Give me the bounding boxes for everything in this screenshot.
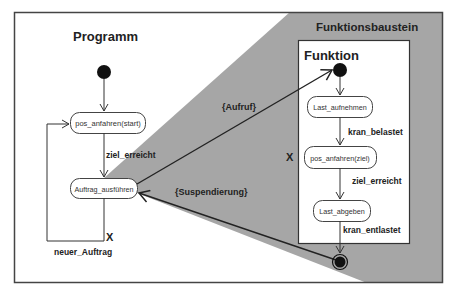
- suspend-label: {Suspendierung}: [175, 187, 248, 197]
- function-start-node: [333, 63, 347, 77]
- kran-belastet-label: kran_belastet: [348, 127, 403, 137]
- state-diagram: Programm Funktionsbaustein Funktion pos_…: [0, 0, 451, 295]
- program-loop-x-mark: X: [106, 231, 114, 243]
- state-last-abgeben[interactable]: Last_abgeben: [314, 201, 371, 222]
- program-ziel-erreicht-label: ziel_erreicht: [106, 150, 156, 160]
- function-end-node: [333, 255, 348, 270]
- state-last-abgeben-label: Last_abgeben: [319, 207, 365, 216]
- state-pos-anfahren-start-label: pos_anfahren(start): [75, 119, 141, 128]
- state-pos-anfahren-ziel-label: pos_anfahren(ziel): [310, 154, 370, 163]
- state-last-aufnehmen[interactable]: Last_aufnehmen: [308, 97, 373, 118]
- state-auftrag-ausfuehren[interactable]: Auftrag_ausführen: [71, 179, 138, 199]
- state-auftrag-ausfuehren-label: Auftrag_ausführen: [74, 185, 133, 194]
- state-pos-anfahren-start[interactable]: pos_anfahren(start): [71, 113, 146, 134]
- program-title: Programm: [73, 29, 138, 44]
- function-block-x-mark: X: [286, 151, 294, 163]
- function-ziel-erreicht-label: ziel_erreicht: [352, 176, 402, 186]
- function-block-title: Funktionsbaustein: [316, 21, 418, 33]
- call-label: {Aufruf}: [222, 102, 256, 112]
- state-pos-anfahren-ziel[interactable]: pos_anfahren(ziel): [305, 147, 377, 169]
- program-start-node: [97, 65, 111, 79]
- function-title: Funktion: [304, 48, 359, 63]
- neuer-auftrag-label: neuer_Auftrag: [54, 247, 112, 257]
- kran-entlastet-label: kran_entlastet: [343, 225, 401, 235]
- state-last-aufnehmen-label: Last_aufnehmen: [313, 103, 367, 112]
